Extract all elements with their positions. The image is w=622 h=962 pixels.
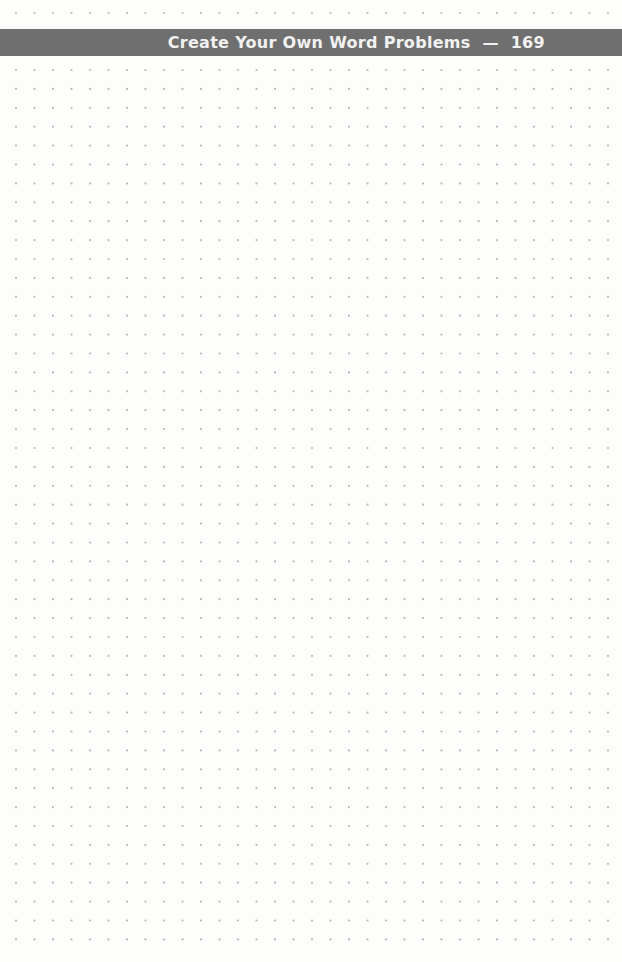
page-number: 169 [511,33,545,52]
header-band: Create Your Own Word Problems — 169 [0,29,622,56]
chapter-title: Create Your Own Word Problems [168,33,471,52]
page-header-title: Create Your Own Word Problems — 169 [168,29,545,56]
dot-grid [0,0,622,962]
separator: — [483,33,499,52]
